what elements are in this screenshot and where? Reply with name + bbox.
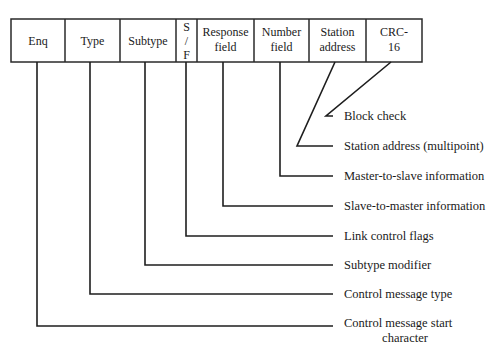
leader-block-check xyxy=(326,62,391,116)
field-station-line2: address xyxy=(320,40,356,54)
field-station-line1: Station xyxy=(320,25,354,39)
label-control-message-start-line2: character xyxy=(382,331,429,345)
label-subtype-modifier: Subtype modifier xyxy=(344,258,432,272)
field-response-line2: field xyxy=(215,40,237,54)
leader-control-type xyxy=(90,62,333,294)
label-station-address-multipoint: Station address (multipoint) xyxy=(344,139,484,153)
leader-lines xyxy=(37,62,391,326)
field-enq: Enq xyxy=(28,34,47,48)
field-crc-line2: 16 xyxy=(388,40,400,54)
leader-start-character xyxy=(37,62,333,326)
field-number-line2: field xyxy=(271,40,293,54)
leader-master-to-slave xyxy=(280,62,333,176)
leader-subtype-modifier xyxy=(145,62,333,265)
frame-fields: Enq Type Subtype S / F Response field Nu… xyxy=(11,19,422,62)
field-crc-line1: CRC- xyxy=(380,25,408,39)
field-response-line1: Response xyxy=(203,25,249,39)
label-control-message-type: Control message type xyxy=(344,287,453,301)
field-sf-line3: F xyxy=(183,48,190,62)
field-type: Type xyxy=(81,34,105,48)
leader-slave-to-master xyxy=(223,62,333,206)
leader-station-address xyxy=(297,62,335,146)
field-number-line1: Number xyxy=(262,25,301,39)
field-subtype: Subtype xyxy=(128,34,167,48)
label-block-check: Block check xyxy=(344,109,407,123)
label-control-message-start-line1: Control message start xyxy=(344,316,453,330)
field-sf-line2: / xyxy=(185,34,189,48)
label-master-to-slave: Master-to-slave information xyxy=(344,169,485,183)
frame-format-diagram: Enq Type Subtype S / F Response field Nu… xyxy=(0,0,497,363)
annotation-labels: Block check Station address (multipoint)… xyxy=(344,109,486,345)
leader-link-control xyxy=(186,62,333,236)
label-link-control-flags: Link control flags xyxy=(344,229,434,243)
field-sf-line1: S xyxy=(183,20,190,34)
label-slave-to-master: Slave-to-master information xyxy=(344,199,486,213)
